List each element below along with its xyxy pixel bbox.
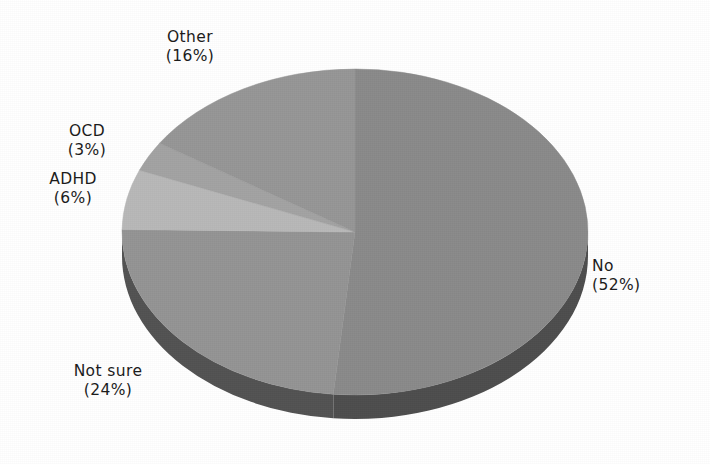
slice-label-adhd-percent: (6%) (8, 189, 138, 208)
slice-label-not-sure-name: Not sure (28, 362, 188, 381)
slice-label-ocd-percent: (3%) (22, 141, 152, 160)
slice-label-no-percent: (52%) (592, 276, 702, 295)
slice-label-adhd-name: ADHD (8, 170, 138, 189)
slice-label-no: No (52%) (592, 257, 702, 295)
slice-label-other: Other (16%) (120, 28, 260, 66)
pie-top-faces (122, 69, 588, 395)
slice-label-other-percent: (16%) (120, 47, 260, 66)
slice-label-not-sure: Not sure (24%) (28, 362, 188, 400)
slice-label-ocd-name: OCD (22, 122, 152, 141)
slice-label-other-name: Other (120, 28, 260, 47)
slice-label-adhd: ADHD (6%) (8, 170, 138, 208)
slice-label-not-sure-percent: (24%) (28, 381, 188, 400)
pie-chart-figure: Other (16%) OCD (3%) ADHD (6%) Not sure … (0, 0, 710, 464)
slice-label-no-name: No (592, 257, 702, 276)
slice-label-ocd: OCD (3%) (22, 122, 152, 160)
pie-slice-no (333, 69, 588, 395)
